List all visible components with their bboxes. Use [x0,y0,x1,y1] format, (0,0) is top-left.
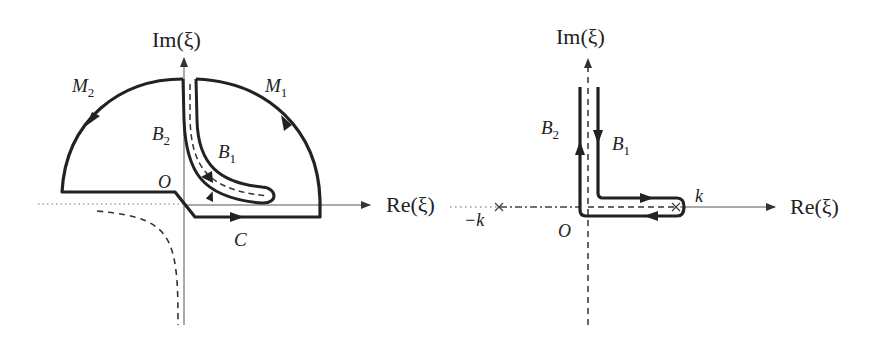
imag-axis-arrow-icon [584,58,592,68]
branch-cut-contour [580,87,684,216]
contour-diagram: Im(ξ) Re(ξ) O M2 M1 B2 B1 C [0,0,896,346]
origin-label: O [158,172,171,192]
b2-label: B2 [541,117,559,142]
k-label: k [695,186,704,206]
origin-label: O [558,221,571,241]
b1-label: B1 [218,141,236,166]
real-axis-label: Re(ξ) [790,194,839,219]
left-panel: Im(ξ) Re(ξ) O M2 M1 B2 B1 C [38,27,435,325]
imag-axis-label: Im(ξ) [556,24,605,49]
imag-axis-label: Im(ξ) [152,27,201,52]
left-arrow-icon [644,211,658,221]
m2-label: M2 [71,75,94,100]
dashed-curve [97,211,178,325]
m1-label: M1 [264,75,287,100]
b2-arrow-icon [575,141,585,155]
b1-label: B1 [612,133,630,158]
right-panel: Im(ξ) Re(ξ) O k −k B2 B1 [450,24,839,325]
right-arrow-icon [640,193,654,203]
real-axis-label: Re(ξ) [386,192,435,217]
b1-arrow-icon [593,130,603,144]
c-label: C [234,229,247,250]
minus-k-label: −k [464,210,485,230]
c-arrow-icon [230,212,244,222]
b2-label: B2 [152,123,170,148]
